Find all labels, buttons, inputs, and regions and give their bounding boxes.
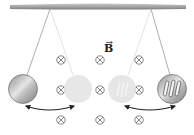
string-right-extreme bbox=[151, 9, 170, 75]
solid-plate-ghost bbox=[64, 75, 92, 103]
ceiling-support bbox=[10, 4, 186, 10]
pendulum-diagram bbox=[0, 0, 194, 135]
slotted-plate-ghost bbox=[108, 75, 136, 103]
swing-arrow-left bbox=[26, 106, 74, 110]
string-left-extreme bbox=[27, 9, 50, 75]
swing-arrow-right bbox=[125, 106, 175, 110]
magnetic-field-label: B bbox=[104, 42, 113, 55]
string-left-ghost bbox=[50, 9, 73, 75]
string-right-ghost bbox=[128, 9, 151, 75]
slotted-plate bbox=[158, 75, 187, 104]
solid-plate bbox=[9, 75, 38, 104]
